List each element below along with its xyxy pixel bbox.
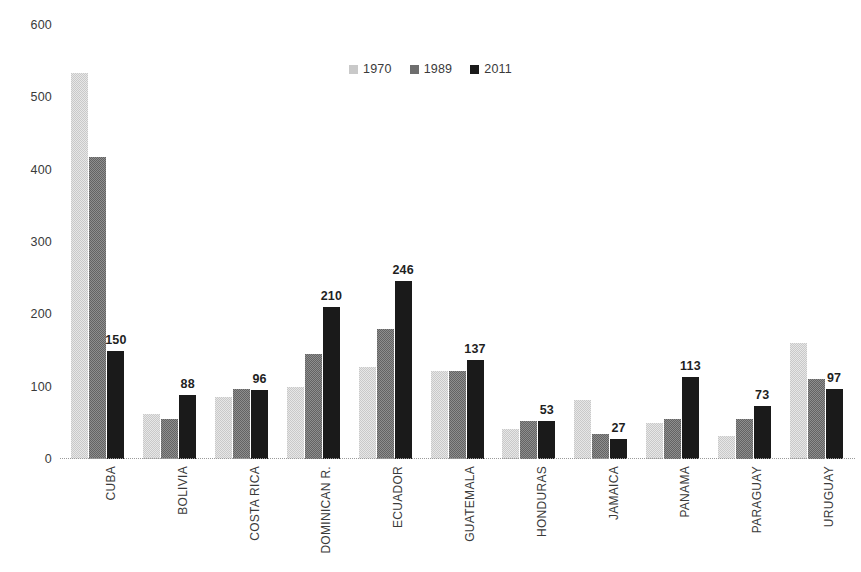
- bar-1989-ecuador[interactable]: [377, 329, 394, 459]
- bar-group: [359, 18, 412, 459]
- bar-1989-dominican-r[interactable]: [305, 354, 322, 459]
- y-axis-tick-label: 200: [0, 307, 52, 321]
- category-label: DOMINICAN R.: [319, 466, 333, 554]
- bar-1989-guatemala[interactable]: [449, 371, 466, 459]
- bar-2011-ecuador[interactable]: [395, 281, 412, 459]
- bar-1989-costa-rica[interactable]: [233, 389, 250, 459]
- bar-2011-bolivia[interactable]: [179, 395, 196, 459]
- y-axis-tick-label: 300: [0, 235, 52, 249]
- category-label: ECUADOR: [391, 466, 405, 528]
- plot-area: [62, 18, 852, 459]
- bar-group: [502, 18, 555, 459]
- category-label: URUGUAY: [822, 466, 836, 527]
- bar-1989-honduras[interactable]: [520, 421, 537, 459]
- bar-2011-cuba[interactable]: [107, 351, 124, 460]
- bar-2011-costa-rica[interactable]: [251, 390, 268, 459]
- bar-1970-costa-rica[interactable]: [215, 397, 232, 459]
- bar-2011-jamaica[interactable]: [610, 439, 627, 459]
- bar-group: [574, 18, 627, 459]
- bar-1970-cuba[interactable]: [71, 73, 88, 459]
- bar-1970-ecuador[interactable]: [359, 367, 376, 459]
- bar-group: [790, 18, 843, 459]
- data-label: 246: [392, 263, 413, 277]
- category-label: COSTA RICA: [248, 466, 262, 541]
- data-label: 97: [827, 371, 841, 385]
- bar-1989-uruguay[interactable]: [808, 379, 825, 459]
- y-axis-tick-label: 500: [0, 90, 52, 104]
- bar-2011-guatemala[interactable]: [467, 360, 484, 459]
- data-label: 27: [611, 421, 625, 435]
- y-axis-tick-label: 100: [0, 380, 52, 394]
- data-label: 137: [464, 342, 485, 356]
- data-label: 210: [321, 289, 342, 303]
- bar-chart: 0100200300400500600 197019892011 CUBABOL…: [0, 0, 861, 572]
- category-label: PARAGUAY: [750, 466, 764, 533]
- category-label: HONDURAS: [535, 466, 549, 537]
- bar-1970-uruguay[interactable]: [790, 343, 807, 459]
- y-axis-tick-label: 400: [0, 163, 52, 177]
- bar-1970-panama[interactable]: [646, 423, 663, 459]
- category-label: CUBA: [104, 466, 118, 501]
- category-label: BOLIVIA: [176, 466, 190, 515]
- bar-1989-panama[interactable]: [664, 419, 681, 459]
- data-label: 53: [540, 403, 554, 417]
- bar-1970-jamaica[interactable]: [574, 400, 591, 459]
- category-label: GUATEMALA: [463, 466, 477, 542]
- data-label: 150: [105, 333, 126, 347]
- bar-group: [143, 18, 196, 459]
- bar-group: [215, 18, 268, 459]
- bar-1970-honduras[interactable]: [502, 429, 519, 459]
- data-label: 113: [680, 359, 701, 373]
- bar-2011-uruguay[interactable]: [826, 389, 843, 459]
- x-axis-baseline: [60, 458, 855, 459]
- bar-2011-dominican-r[interactable]: [323, 307, 340, 459]
- bar-1989-cuba[interactable]: [89, 157, 106, 459]
- bar-2011-honduras[interactable]: [538, 421, 555, 459]
- data-label: 96: [252, 372, 266, 386]
- data-label: 73: [755, 388, 769, 402]
- bar-1970-guatemala[interactable]: [431, 371, 448, 459]
- y-axis-tick-label: 600: [0, 18, 52, 32]
- bar-1989-paraguay[interactable]: [736, 419, 753, 459]
- bar-group: [71, 18, 124, 459]
- bar-1970-dominican-r[interactable]: [287, 387, 304, 459]
- bar-2011-panama[interactable]: [682, 377, 699, 459]
- y-axis-tick-label: 0: [0, 452, 52, 466]
- bar-group: [646, 18, 699, 459]
- bar-1989-bolivia[interactable]: [161, 419, 178, 459]
- bar-1970-bolivia[interactable]: [143, 414, 160, 459]
- bar-group: [431, 18, 484, 459]
- bar-1970-paraguay[interactable]: [718, 436, 735, 459]
- bar-2011-paraguay[interactable]: [754, 406, 771, 459]
- category-label: PANAMA: [678, 466, 692, 518]
- category-label: JAMAICA: [607, 466, 621, 520]
- bar-group: [287, 18, 340, 459]
- bar-1989-jamaica[interactable]: [592, 434, 609, 459]
- data-label: 88: [181, 377, 195, 391]
